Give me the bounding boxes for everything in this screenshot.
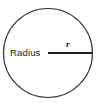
circle-radius-diagram: Radius r — [0, 0, 102, 105]
diagram-canvas: Radius r — [0, 0, 102, 105]
radius-word-label: Radius — [10, 47, 41, 58]
radius-symbol-label: r — [66, 39, 70, 49]
